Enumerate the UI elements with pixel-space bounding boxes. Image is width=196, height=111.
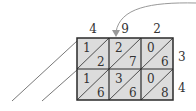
cell-tens: 2 bbox=[115, 41, 123, 55]
cell-units: 2 bbox=[97, 55, 105, 69]
cell-units: 6 bbox=[161, 55, 169, 69]
cell-tens: 1 bbox=[83, 41, 91, 55]
cell-units: 6 bbox=[97, 86, 105, 100]
right-digit: 4 bbox=[178, 81, 186, 95]
right-digit: 3 bbox=[178, 50, 186, 64]
top-digit: 2 bbox=[153, 22, 161, 36]
diagonal-extension-1 bbox=[12, 41, 77, 101]
cell-tens: 0 bbox=[147, 41, 155, 55]
cell-units: 7 bbox=[129, 55, 137, 69]
diagonal-extension-2 bbox=[42, 70, 77, 101]
lattice-diagram: 4 9 2 3 4 1 2 2 7 0 6 1 6 3 6 0 8 bbox=[0, 0, 196, 111]
cell-tens: 1 bbox=[83, 72, 91, 86]
cell-units: 8 bbox=[161, 86, 169, 100]
cell-units: 6 bbox=[129, 86, 137, 100]
cell-tens: 0 bbox=[147, 72, 155, 86]
top-digit: 9 bbox=[121, 22, 129, 36]
arrow-head-icon bbox=[112, 30, 120, 37]
top-digit: 4 bbox=[89, 22, 97, 36]
cell-tens: 3 bbox=[115, 72, 123, 86]
